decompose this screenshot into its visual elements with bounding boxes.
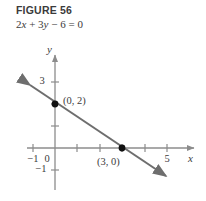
y-tick-label-3: 3 <box>36 75 48 86</box>
data-point-3-0 <box>119 145 126 152</box>
y-axis-label: y <box>47 43 52 55</box>
y-axis <box>51 55 59 190</box>
point-label-0-2: (0, 2) <box>63 95 86 106</box>
figure-container: FIGURE 56 2x + 3y − 6 = 0 <box>0 0 206 201</box>
data-point-0-2 <box>52 101 59 108</box>
x-axis <box>27 144 194 152</box>
point-label-3-0: (3, 0) <box>97 156 120 167</box>
y-tick-label--1: −1 <box>33 163 49 174</box>
x-tick-label-5: 5 <box>160 153 174 164</box>
coordinate-plot <box>0 0 206 201</box>
x-axis-label: x <box>188 152 193 164</box>
